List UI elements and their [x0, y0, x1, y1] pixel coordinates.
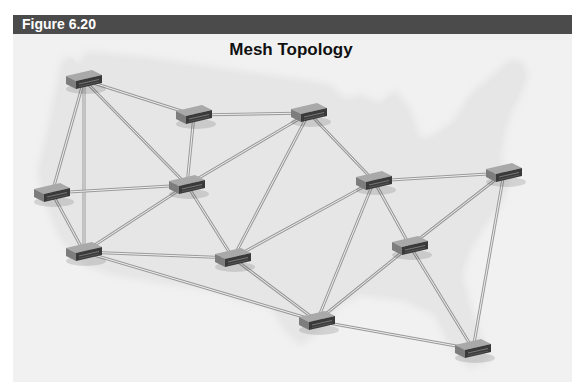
diagram-title: Mesh Topology [0, 40, 582, 60]
